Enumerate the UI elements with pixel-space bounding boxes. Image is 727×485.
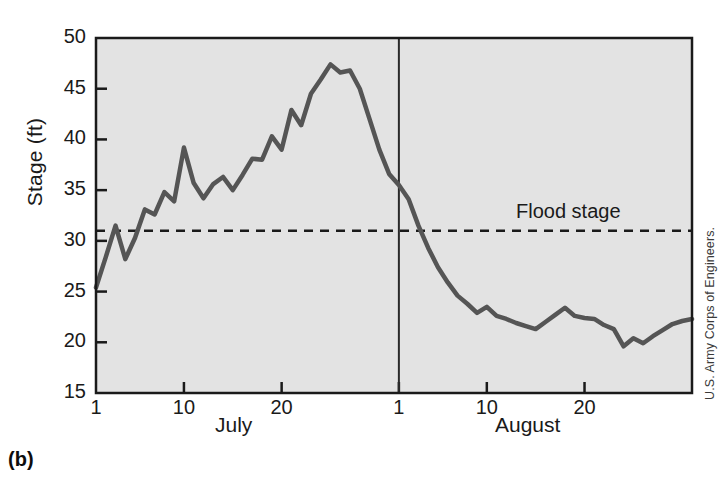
source-credit: U.S. Army Corps of Engineers.: [703, 227, 717, 400]
y-tick-label: 20: [40, 329, 86, 352]
y-tick-label: 30: [40, 228, 86, 251]
x-tick-label: 1: [379, 396, 419, 419]
panel-label: (b): [8, 448, 34, 471]
y-tick-label: 50: [40, 25, 86, 48]
y-tick-label: 40: [40, 126, 86, 149]
flood-stage-label: Flood stage: [516, 200, 621, 223]
x-tick-label: 20: [565, 396, 605, 419]
x-tick-label: 10: [164, 396, 204, 419]
figure-panel-b: Stage (ft) 1520253035404550 1102011020 J…: [0, 0, 727, 485]
y-tick-label: 25: [40, 279, 86, 302]
x-axis-month-july: July: [215, 413, 252, 437]
x-tick-label: 20: [262, 396, 302, 419]
y-tick-label: 35: [40, 177, 86, 200]
y-tick-label: 45: [40, 76, 86, 99]
x-axis-month-august: August: [495, 413, 560, 437]
x-tick-label: 1: [76, 396, 116, 419]
